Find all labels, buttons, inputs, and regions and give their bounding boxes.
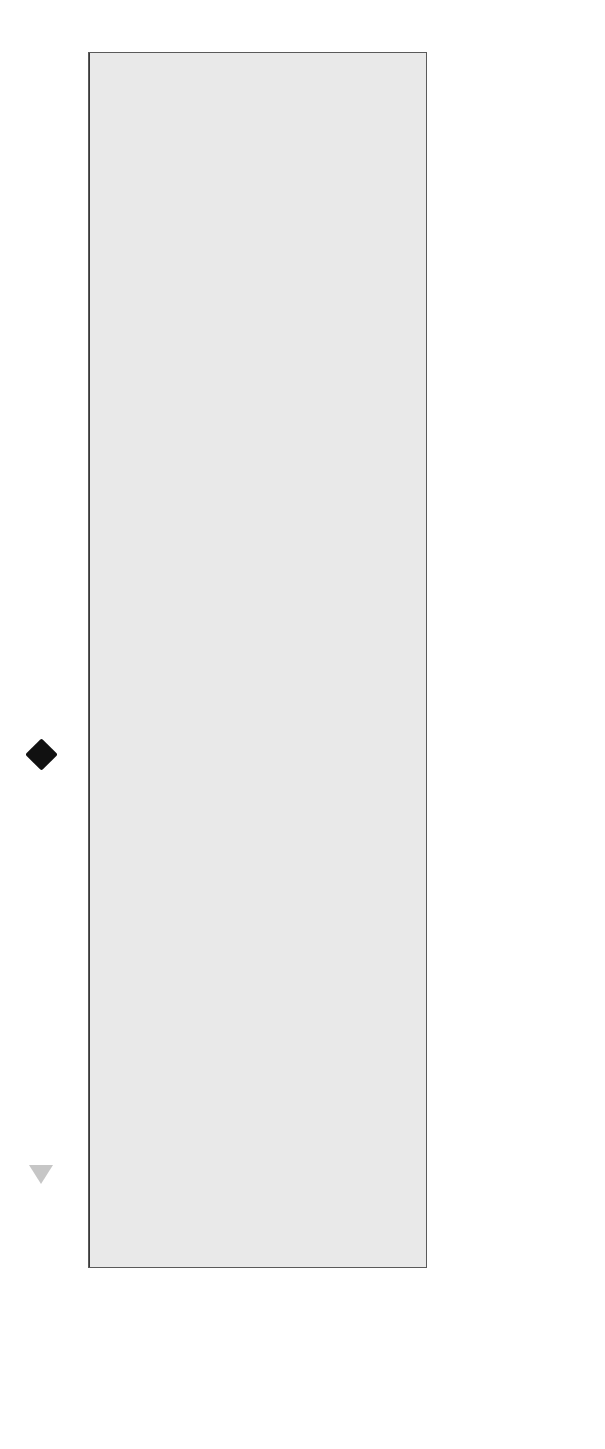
diamond-marker-icon xyxy=(25,738,58,771)
plot-area xyxy=(88,52,427,1268)
x-axis-title xyxy=(36,1330,428,1355)
legend-item-median xyxy=(18,1245,64,1449)
chart-figure xyxy=(0,0,605,1449)
triangle-marker-icon xyxy=(29,1165,53,1184)
legend-item-bottom-10 xyxy=(18,884,64,1184)
legend-item-top-10 xyxy=(18,466,64,766)
zero-axis-line xyxy=(89,53,90,1267)
